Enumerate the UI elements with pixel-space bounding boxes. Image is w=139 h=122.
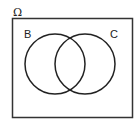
venn-diagram: Ω B C xyxy=(0,0,139,122)
set-c-label: C xyxy=(110,28,118,40)
set-b-label: B xyxy=(24,28,31,40)
universe-label: Ω xyxy=(13,6,22,19)
